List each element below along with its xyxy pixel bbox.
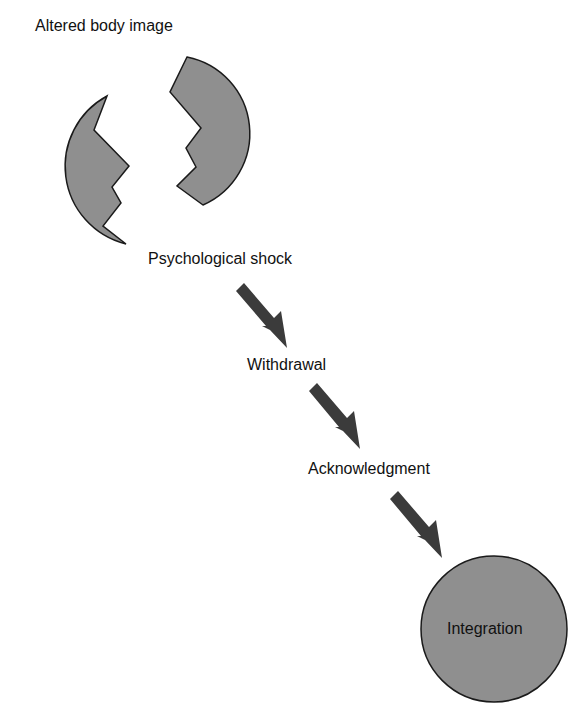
diagram-title: Altered body image — [35, 18, 173, 34]
arrow-icon — [236, 283, 287, 348]
broken-shape-left — [65, 96, 129, 244]
stage-label-integration: Integration — [447, 621, 523, 637]
arrow-icon — [390, 491, 442, 558]
broken-shape-right — [170, 57, 250, 205]
stage-label-psychological-shock: Psychological shock — [148, 251, 292, 267]
stage-label-withdrawal: Withdrawal — [247, 357, 326, 373]
stage-label-acknowledgment: Acknowledgment — [308, 461, 430, 477]
arrow-icon — [309, 383, 360, 449]
